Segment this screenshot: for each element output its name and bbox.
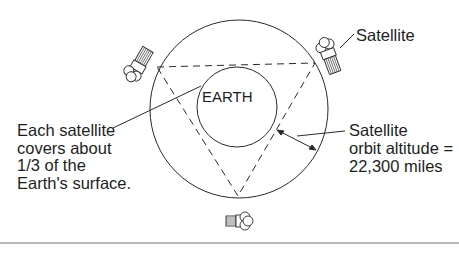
satellite-icon — [313, 35, 344, 76]
satellite-icon — [120, 44, 155, 86]
satellite-leader-line — [340, 34, 354, 48]
coverage-note-line: covers about — [17, 140, 111, 157]
earth-circle — [197, 67, 277, 147]
altitude-arrow — [279, 131, 314, 149]
satellite-icon — [226, 212, 253, 230]
altitude-note-line: orbit altitude = — [349, 140, 453, 157]
coverage-leader-line — [113, 86, 201, 128]
altitude-note-line: 22,300 miles — [349, 158, 443, 175]
satellite-label: Satellite — [356, 27, 415, 44]
altitude-note-line: Satellite — [349, 122, 408, 139]
earth-label: EARTH — [202, 88, 253, 105]
bottom-rule — [0, 242, 459, 244]
coverage-note-line: 1/3 of the — [17, 157, 86, 174]
altitude-leader-line — [297, 131, 345, 136]
coverage-note-line: Earth's surface. — [17, 175, 131, 192]
coverage-note-line: Each satellite — [17, 122, 115, 139]
orbit-circle — [150, 20, 328, 198]
